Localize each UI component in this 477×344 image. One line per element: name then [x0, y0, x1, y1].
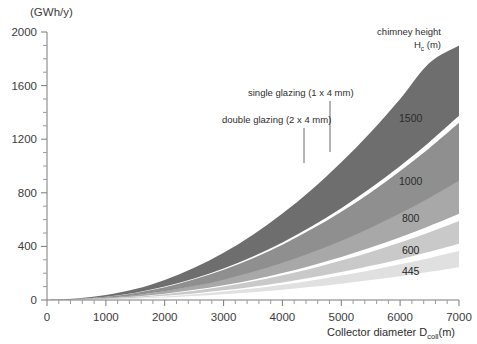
x-tick-label-3000: 3000	[211, 311, 237, 323]
legend-title-line1: chimney height	[377, 26, 441, 37]
band-label-600: 600	[402, 244, 420, 256]
x-tick-label-2000: 2000	[152, 311, 178, 323]
x-tick-label-6000: 6000	[387, 311, 413, 323]
x-tick-label-0: 0	[44, 311, 50, 323]
band-label-1500: 1500	[399, 112, 423, 124]
x-tick-label-5000: 5000	[329, 311, 355, 323]
x-tick-label-1000: 1000	[93, 311, 119, 323]
y-axis-unit-label: (GWh/y)	[30, 6, 73, 18]
y-tick-label-0: 0	[31, 294, 37, 306]
y-tick-label-2000: 2000	[11, 26, 37, 38]
y-tick-label-800: 800	[18, 187, 37, 199]
band-label-1000: 1000	[399, 175, 423, 187]
y-tick-label-1200: 1200	[11, 133, 37, 145]
x-tick-label-4000: 4000	[270, 311, 296, 323]
annotation-single-glazing: single glazing (1 x 4 mm)	[248, 87, 354, 98]
legend-title-line2: Hc (m)	[414, 39, 441, 52]
x-axis-title: Collector diameter Dcoll(m)	[327, 326, 455, 341]
band-label-800: 800	[402, 212, 420, 224]
chart-container: chimney heightHc (m)single glazing (1 x …	[0, 0, 477, 344]
stratospheric-power-chart: chimney heightHc (m)single glazing (1 x …	[0, 0, 477, 344]
band-label-445: 445	[402, 265, 420, 277]
y-tick-label-400: 400	[18, 240, 37, 252]
y-tick-label-1600: 1600	[11, 80, 37, 92]
data-bands-group	[47, 45, 459, 300]
annotation-double-glazing: double glazing (2 x 4 mm)	[222, 114, 331, 125]
x-tick-label-7000: 7000	[446, 311, 472, 323]
